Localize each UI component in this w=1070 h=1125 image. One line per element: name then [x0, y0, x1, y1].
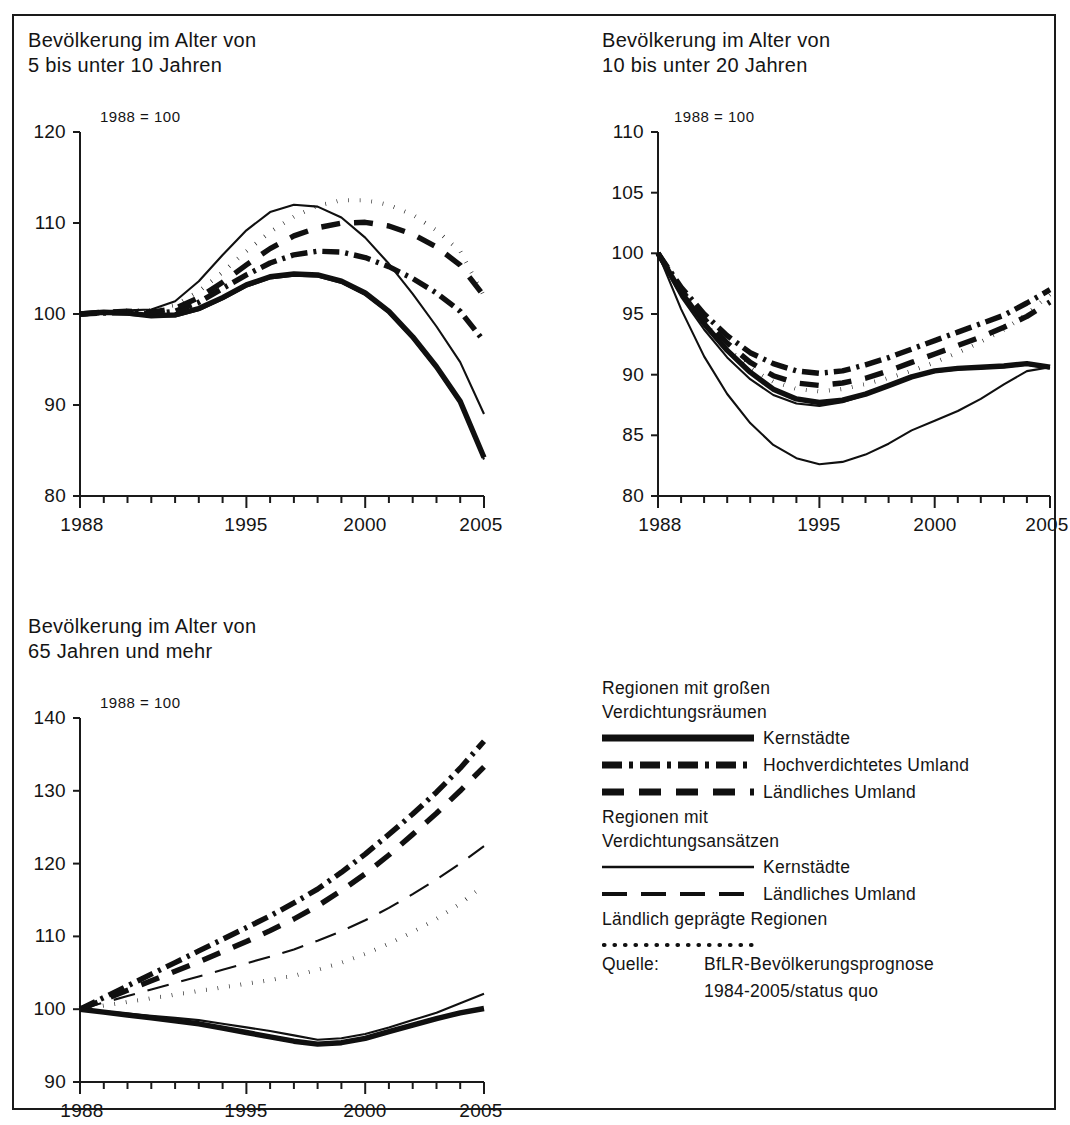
- ytick-label: 90: [22, 1071, 66, 1093]
- figure-frame: Bevölkerung im Alter von 5 bis unter 10 …: [12, 14, 1056, 1110]
- line-sample-thin-solid-icon: [602, 859, 754, 875]
- ytick-label: 110: [22, 212, 66, 234]
- curves-age-65-plus: [22, 614, 512, 1114]
- ytick-label: 80: [22, 485, 66, 507]
- xtick-label: 1988: [60, 514, 103, 536]
- series-thin-dash: [80, 276, 484, 460]
- legend-label: Hochverdichtetes Umland: [763, 755, 969, 775]
- curves-age-10-to-20: [596, 28, 1066, 528]
- legend-item-ansaetze-kernstaedte[interactable]: Kernstädte: [602, 853, 1052, 880]
- legend-group-heading-3: Ländlich geprägte Regionen: [602, 907, 1052, 931]
- series-thin-dash: [80, 846, 484, 1009]
- legend-group-heading-2: Regionen mit Verdichtungsansätzen: [602, 805, 1052, 853]
- xtick-label: 1988: [638, 514, 681, 536]
- ytick-label: 130: [22, 780, 66, 802]
- ytick-label: 90: [22, 394, 66, 416]
- legend-item-ansaetze-laendliches-umland[interactable]: Ländliches Umland: [602, 880, 1052, 907]
- curves-age-5-to-10: [22, 28, 512, 528]
- series-thick-solid: [658, 253, 1050, 402]
- series-thin-solid: [80, 205, 484, 414]
- series-dotted: [80, 885, 484, 1009]
- line-sample-thick-solid-icon: [602, 730, 754, 746]
- xtick-label: 1995: [224, 1100, 267, 1122]
- xtick-label: 1995: [224, 514, 267, 536]
- legend-label: Ländliches Umland: [763, 884, 916, 904]
- panel-age-65-plus: Bevölkerung im Alter von 65 Jahren und m…: [22, 614, 512, 1114]
- page-top-crop-fragment: [0, 0, 1070, 14]
- ytick-label: 100: [22, 998, 66, 1020]
- series-thick-solid: [80, 274, 484, 458]
- panel-age-5-to-10: Bevölkerung im Alter von 5 bis unter 10 …: [22, 28, 512, 528]
- ytick-label: 105: [596, 182, 644, 204]
- legend-label: Ländliches Umland: [763, 782, 916, 802]
- xtick-label: 2005: [459, 1100, 502, 1122]
- xtick-label: 2000: [913, 514, 956, 536]
- xtick-label: 1995: [797, 514, 840, 536]
- legend-item-grosse-kernstaedte[interactable]: Kernstädte: [602, 724, 1052, 751]
- ytick-label: 140: [22, 707, 66, 729]
- xtick-label: 2000: [343, 1100, 386, 1122]
- panel-age-10-to-20: Bevölkerung im Alter von 10 bis unter 20…: [596, 28, 1066, 528]
- xtick-label: 2005: [1025, 514, 1068, 536]
- plot-area-age-10-to-20: 110 105 100 95 90 85 80 1988 1995 2000 2…: [596, 28, 1066, 528]
- legend-label: Kernstädte: [763, 728, 850, 748]
- legend-label: Kernstädte: [763, 857, 850, 877]
- legend-item-laendliches-umland-gross[interactable]: Ländliches Umland: [602, 778, 1052, 805]
- series-thick-dash-dot: [80, 741, 484, 1009]
- xtick-label: 1988: [60, 1100, 103, 1122]
- ytick-label: 110: [22, 925, 66, 947]
- ytick-label: 95: [596, 303, 644, 325]
- ytick-label: 110: [596, 121, 644, 143]
- xticks-age-10-to-20: [658, 496, 1050, 508]
- source-value: BfLR-Bevölkerungsprognose 1984-2005/stat…: [704, 951, 934, 1005]
- plot-area-age-65-plus: 140 130 120 110 100 90 1988 1995 2000 20…: [22, 614, 512, 1114]
- ytick-label: 80: [596, 485, 644, 507]
- ytick-label: 90: [596, 364, 644, 386]
- ytick-label: 85: [596, 424, 644, 446]
- chart-legend: Regionen mit großen Verdichtungsräumen K…: [602, 676, 1052, 958]
- ytick-label: 120: [22, 121, 66, 143]
- series-thick-dash: [80, 222, 484, 314]
- legend-group-heading-1: Regionen mit großen Verdichtungsräumen: [602, 676, 1052, 724]
- plot-area-age-5-to-10: 120 110 100 90 80 1988 1995 2000 2005: [22, 28, 512, 528]
- series-thick-dash-dot: [658, 253, 1050, 373]
- line-sample-thick-dash-icon: [602, 784, 754, 800]
- xticks-age-65-plus: [80, 1082, 484, 1094]
- legend-item-hochverdichtetes-umland[interactable]: Hochverdichtetes Umland: [602, 751, 1052, 778]
- xticks-age-5-to-10: [80, 496, 484, 508]
- xtick-label: 2000: [343, 514, 386, 536]
- ytick-label: 120: [22, 853, 66, 875]
- source-block: Quelle: BfLR-Bevölkerungsprognose 1984-2…: [602, 951, 1042, 1011]
- series-thin-solid: [658, 253, 1050, 464]
- ytick-label: 100: [22, 303, 66, 325]
- ytick-label: 100: [596, 242, 644, 264]
- series-thick-dash-dot: [80, 251, 484, 341]
- source-label: Quelle:: [602, 951, 659, 978]
- line-sample-thin-dash-icon: [602, 886, 754, 902]
- xtick-label: 2005: [459, 514, 502, 536]
- line-sample-thick-dash-dot-icon: [602, 757, 754, 773]
